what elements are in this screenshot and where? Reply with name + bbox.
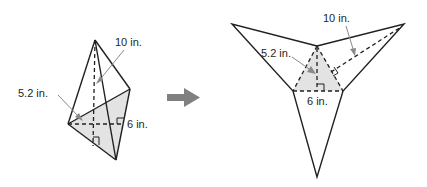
- net-label-slant-height: 10 in.: [323, 12, 350, 24]
- pyramid-net: 10 in. 5.2 in. 6 in.: [232, 12, 404, 177]
- diagram-canvas: 10 in. 5.2 in. 6 in. 10 in. 5.2 in. 6 in…: [0, 0, 427, 187]
- right-arrow-icon: [167, 88, 200, 107]
- label-slant-height: 10 in.: [115, 36, 142, 48]
- leader-arrowhead: [350, 48, 356, 56]
- pyramid-3d: 10 in. 5.2 in. 6 in.: [18, 36, 148, 160]
- leader-line: [98, 50, 124, 82]
- net-label-base-edge: 6 in.: [307, 95, 328, 107]
- label-base-edge: 6 in.: [127, 118, 148, 130]
- label-base-height: 5.2 in.: [18, 87, 48, 99]
- net-label-base-height: 5.2 in.: [261, 47, 291, 59]
